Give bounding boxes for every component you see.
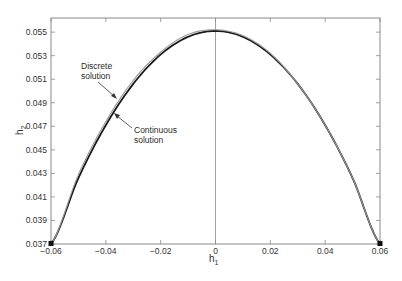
x-tick-label: −0.02 (150, 246, 172, 256)
annotation-discrete: Discrete solution (81, 61, 117, 99)
y-tick-label: 0.045 (26, 145, 48, 155)
x-tick-label: 0.02 (262, 246, 279, 256)
y-tick-label: 0.053 (26, 51, 48, 61)
endpoint-marker-square (378, 241, 383, 246)
y-tick-label: 0.051 (26, 74, 48, 84)
annotation-discrete-line1: Discrete (81, 61, 112, 71)
x-tick-label: 0.04 (317, 246, 334, 256)
y-tick-label: 0.041 (26, 192, 48, 202)
annotation-discrete-arrow (98, 82, 114, 96)
x-tick-label: −0.04 (95, 246, 117, 256)
y-tick-label: 0.043 (26, 168, 48, 178)
axis-ticks: −0.06−0.04−0.0200.020.040.060.0370.0390.… (26, 18, 389, 256)
endpoint-marker-square (49, 241, 54, 246)
y-tick-label: 0.039 (26, 215, 48, 225)
x-tick-label: 0.06 (372, 246, 389, 256)
annotation-discrete-line2: solution (81, 71, 111, 81)
annotation-continuous-line1: Continuous (134, 125, 177, 135)
y-tick-label: 0.037 (26, 239, 48, 249)
annotation-continuous: Continuous solution (114, 113, 177, 145)
y-tick-label: 0.047 (26, 121, 48, 131)
annotation-continuous-line2: solution (134, 135, 164, 145)
y-tick-label: 0.049 (26, 98, 48, 108)
annotation-continuous-arrow (117, 116, 132, 128)
chart-canvas: −0.06−0.04−0.0200.020.040.060.0370.0390.… (0, 0, 402, 281)
y-axis-label: h2 (14, 125, 27, 135)
y-tick-label: 0.055 (26, 27, 48, 37)
